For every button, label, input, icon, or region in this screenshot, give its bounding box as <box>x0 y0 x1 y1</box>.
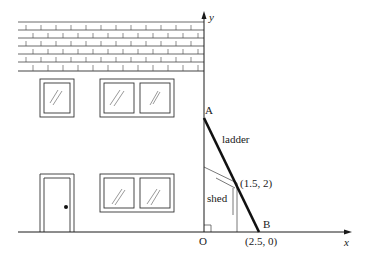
shed-label: shed <box>207 193 227 204</box>
shed-corner-coords-label: (1.5, 2) <box>240 178 272 189</box>
y-axis-label: y <box>209 12 214 23</box>
ladder-diagram <box>0 0 368 260</box>
door <box>40 174 74 232</box>
origin-label: O <box>199 236 207 247</box>
roof-tiles <box>18 22 204 71</box>
axes <box>18 11 352 235</box>
point-b-coords-label: (2.5, 0) <box>245 236 277 247</box>
upper-windows <box>40 79 174 117</box>
point-a-label: A <box>205 105 213 116</box>
ladder-label: ladder <box>222 134 249 145</box>
lower-windows <box>100 174 174 212</box>
x-axis-label: x <box>344 237 349 248</box>
point-b-label: B <box>263 219 270 230</box>
